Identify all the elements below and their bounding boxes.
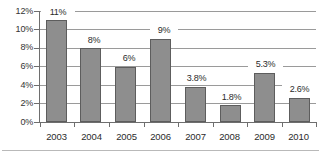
y-tick-label-8: 8% xyxy=(1,43,33,52)
x-tick-label-2005: 2005 xyxy=(109,131,144,142)
bar-value-label-2004: 8% xyxy=(80,36,108,45)
x-tick-label-2008: 2008 xyxy=(212,131,247,142)
bar-group-2007[interactable] xyxy=(185,11,206,122)
bar-2006[interactable] xyxy=(150,39,171,122)
y-tick-label-6: 6% xyxy=(1,62,33,71)
x-tick-mark-8 xyxy=(316,122,317,127)
bar-2009[interactable] xyxy=(254,73,275,122)
bar-value-label-2006: 9% xyxy=(150,26,178,35)
bar-2008[interactable] xyxy=(220,105,241,122)
x-tick-mark-7 xyxy=(282,122,283,127)
x-tick-label-2009: 2009 xyxy=(247,131,282,142)
x-tick-label-2006: 2006 xyxy=(143,131,178,142)
bar-value-label-2003: 11% xyxy=(41,8,75,17)
y-tick-label-12: 12% xyxy=(1,7,33,16)
y-tick-label-2: 2% xyxy=(1,99,33,108)
bar-2010[interactable] xyxy=(289,98,310,122)
bar-value-label-2008: 1.8% xyxy=(214,93,249,102)
x-tick-mark-4 xyxy=(178,122,179,127)
x-tick-mark-0 xyxy=(40,122,41,127)
bar-2007[interactable] xyxy=(185,87,206,122)
bar-value-label-2010: 2.6% xyxy=(282,85,317,94)
x-tick-label-2004: 2004 xyxy=(74,131,109,142)
bar-group-2003[interactable] xyxy=(46,11,67,122)
figure-bottom-rule xyxy=(2,150,319,151)
x-tick-label-2010: 2010 xyxy=(281,131,316,142)
bar-group-2008[interactable] xyxy=(220,11,241,122)
bar-2003[interactable] xyxy=(46,20,67,122)
y-tick-label-4: 4% xyxy=(1,81,33,90)
bar-2005[interactable] xyxy=(115,67,136,123)
bar-value-label-2005: 6% xyxy=(115,54,143,63)
x-tick-mark-6 xyxy=(247,122,248,127)
bar-value-label-2009: 5.3% xyxy=(248,60,283,69)
y-tick-label-0: 0% xyxy=(1,118,33,127)
bar-group-2010[interactable] xyxy=(289,11,310,122)
x-tick-label-2003: 2003 xyxy=(39,131,74,142)
bar-group-2004[interactable] xyxy=(80,11,101,122)
bar-group-2005[interactable] xyxy=(115,11,136,122)
bar-value-label-2007: 3.8% xyxy=(179,74,214,83)
bar-2004[interactable] xyxy=(80,48,101,122)
y-tick-label-10: 10% xyxy=(1,25,33,34)
bar-chart: 12% 10% 8% 6% 4% 2% 0% xyxy=(0,0,323,154)
x-tick-label-2007: 2007 xyxy=(178,131,213,142)
x-tick-mark-1 xyxy=(74,122,75,127)
x-tick-mark-5 xyxy=(213,122,214,127)
x-tick-mark-2 xyxy=(109,122,110,127)
y-axis: 12% 10% 8% 6% 4% 2% 0% xyxy=(0,0,33,154)
x-tick-mark-3 xyxy=(144,122,145,127)
